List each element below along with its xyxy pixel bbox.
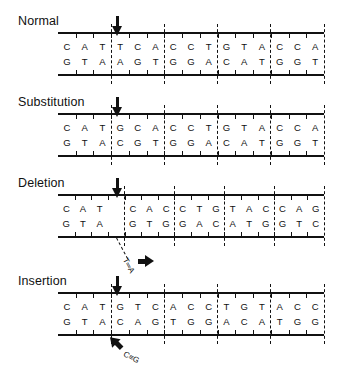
panel-label-deletion: Deletion — [18, 176, 65, 190]
base-bottom: G — [276, 54, 283, 69]
base-bottom: C — [213, 216, 220, 231]
base-cells: CGATTAGCTACGATCGCGTAGCTAATCGCG — [58, 292, 324, 336]
codon-divider — [164, 105, 165, 165]
base-pair-column: TA — [91, 194, 108, 238]
codon-divider-end — [324, 186, 325, 246]
base-top: C — [188, 39, 195, 54]
base-pair-column: TA — [235, 113, 253, 157]
base-pair-column: AT — [147, 113, 165, 157]
base-pair-column: AT — [271, 292, 289, 336]
base-top: T — [117, 39, 123, 54]
codon-divider-end — [324, 24, 325, 84]
base-bottom: A — [259, 314, 265, 329]
codon-divider — [270, 105, 271, 165]
base-pair-column: GC — [235, 292, 253, 336]
base-top: A — [246, 201, 252, 216]
codon-divider — [274, 186, 275, 246]
base-pair-column: CG — [182, 292, 200, 336]
base-pair-column — [108, 194, 125, 238]
base-top: A — [277, 299, 283, 314]
base-pair-column: CG — [182, 113, 200, 157]
base-bottom: G — [262, 216, 269, 231]
base-pair-column: CG — [274, 194, 291, 238]
base-top: A — [152, 39, 158, 54]
base-bottom: G — [134, 135, 141, 150]
base-bottom: A — [206, 135, 212, 150]
codon-divider — [224, 186, 225, 246]
base-pair-column: TA — [129, 292, 147, 336]
base-top: A — [259, 120, 265, 135]
base-pair-column: AT — [253, 113, 271, 157]
base-top: C — [134, 120, 141, 135]
base-top: A — [312, 120, 318, 135]
base-top: C — [170, 120, 177, 135]
base-pair-column: TA — [191, 194, 208, 238]
base-top: C — [179, 201, 186, 216]
base-bottom: T — [170, 314, 176, 329]
callout-leader-line — [116, 238, 128, 260]
base-bottom: T — [312, 135, 318, 150]
base-bottom: A — [117, 54, 123, 69]
base-pair-column: AT — [253, 32, 271, 76]
codon-divider — [270, 284, 271, 344]
base-pair-column: AT — [76, 292, 94, 336]
fat-arrow-head — [145, 255, 154, 267]
base-bottom: T — [153, 54, 159, 69]
base-top: C — [170, 39, 177, 54]
base-bottom: G — [63, 216, 70, 231]
base-pair-column: CG — [174, 194, 191, 238]
duplex-insertion: CGATTAGCTACGATCGCGTAGCTAATCGCG — [58, 292, 324, 336]
base-pair-column: CG — [58, 292, 76, 336]
base-pair-column: TA — [218, 292, 236, 336]
base-pair-column: TA — [93, 292, 111, 336]
base-pair-column: CG — [164, 113, 182, 157]
base-pair-column: AT — [306, 32, 324, 76]
codon-divider — [174, 186, 175, 246]
base-bottom: T — [259, 135, 265, 150]
base-pair-column: CG — [58, 32, 76, 76]
base-pair-column: CG — [58, 194, 75, 238]
base-bottom: A — [99, 314, 105, 329]
base-top: C — [63, 120, 70, 135]
base-bottom: G — [279, 216, 286, 231]
base-top: C — [276, 39, 283, 54]
base-bottom: G — [129, 216, 136, 231]
base-top: A — [259, 39, 265, 54]
base-bottom: T — [82, 54, 88, 69]
base-pair-column: TA — [93, 32, 111, 76]
base-bottom: G — [179, 216, 186, 231]
base-top: T — [206, 39, 212, 54]
base-pair-column: AT — [306, 113, 324, 157]
base-bottom: G — [276, 135, 283, 150]
panel-label-normal: Normal — [18, 14, 59, 28]
base-top: G — [116, 299, 123, 314]
base-pair-column: GC — [111, 113, 129, 157]
base-pair-column: CG — [147, 292, 165, 336]
base-pair-column: AT — [76, 113, 94, 157]
base-bottom: G — [63, 135, 70, 150]
base-top: C — [163, 201, 170, 216]
base-top: A — [81, 299, 87, 314]
base-top: G — [212, 201, 219, 216]
base-top: A — [296, 201, 302, 216]
codon-divider — [217, 24, 218, 84]
base-pair-column: GC — [208, 194, 225, 238]
base-bottom: G — [294, 135, 301, 150]
base-top: A — [146, 201, 152, 216]
base-bottom: T — [277, 314, 283, 329]
base-pair-column: GC — [307, 194, 324, 238]
base-top: G — [116, 120, 123, 135]
base-top: C — [63, 201, 70, 216]
base-pair-column: CG — [258, 194, 275, 238]
base-top: C — [152, 299, 159, 314]
codon-divider — [217, 284, 218, 344]
base-pair-column: TA — [235, 32, 253, 76]
codon-divider-end — [324, 284, 325, 344]
base-pair-column: GC — [218, 113, 236, 157]
base-pair-column: TA — [200, 32, 218, 76]
base-top: T — [97, 201, 103, 216]
panel-label-substitution: Substitution — [18, 95, 85, 109]
base-top: C — [312, 299, 319, 314]
base-pair-column: AT — [75, 194, 92, 238]
